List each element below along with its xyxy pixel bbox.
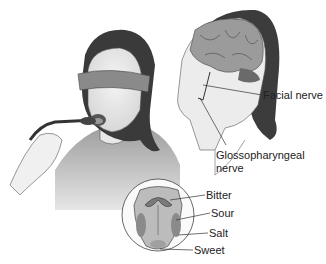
- label-bitter: Bitter: [206, 189, 232, 201]
- label-facial-nerve: Facial nerve: [263, 89, 323, 101]
- tongue-diagram: [122, 179, 210, 251]
- label-nerve: nerve: [216, 162, 244, 174]
- label-salt: Salt: [209, 227, 228, 239]
- label-sour: Sour: [211, 207, 234, 219]
- label-glossopharyngeal: Glossopharyngeal: [216, 149, 305, 161]
- illustration: [0, 0, 326, 264]
- label-sweet: Sweet: [194, 244, 225, 256]
